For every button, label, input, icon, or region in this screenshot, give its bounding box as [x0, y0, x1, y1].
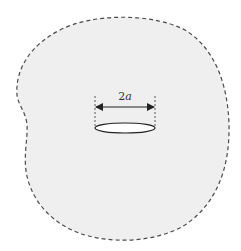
crack-ellipse [95, 123, 155, 133]
dimension-label: 2a [118, 90, 132, 103]
diagram-canvas: 2a [0, 0, 241, 251]
